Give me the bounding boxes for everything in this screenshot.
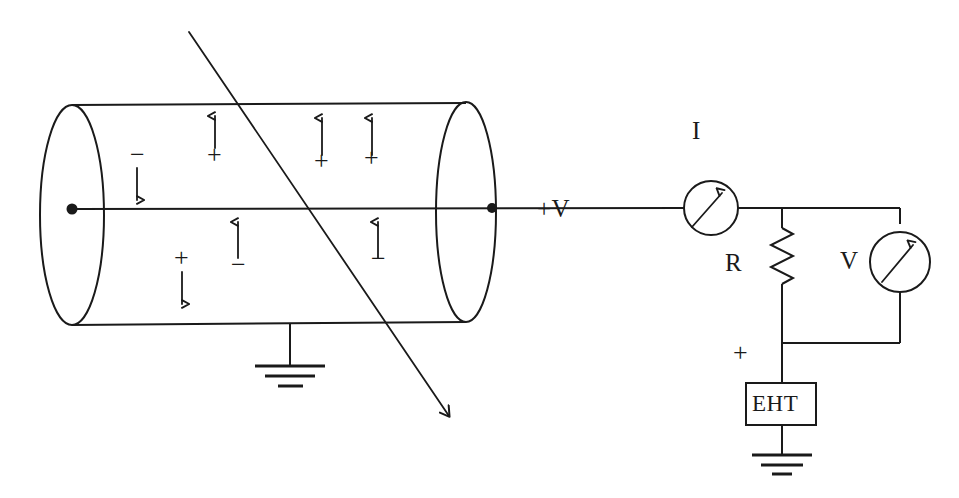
ammeter-label: I: [692, 118, 700, 143]
central-electrode-wire: [67, 203, 685, 215]
electrode-voltage-label: +V: [537, 196, 570, 221]
ion-sign-lower-1: +: [174, 245, 189, 271]
ion-sign-upper-4: +: [364, 145, 379, 171]
chamber-left-face: [40, 105, 104, 325]
chamber-right-face: [436, 102, 496, 322]
voltmeter-symbol: [782, 208, 930, 343]
ion-sign-upper-3: +: [314, 148, 329, 174]
eht-ground: [752, 425, 812, 474]
ammeter-symbol: [684, 181, 738, 235]
resistor-zigzag: [771, 228, 793, 284]
resistor-label: R: [725, 250, 742, 275]
ion-sign-lower-2: −: [231, 252, 246, 278]
diagram-canvas: [0, 0, 959, 498]
circuit-diagram: − + + + + − − +V I R V + EHT: [0, 0, 959, 498]
chamber-body: [40, 102, 496, 325]
chamber-top-edge: [72, 103, 466, 105]
ion-sign-lower-3: −: [371, 246, 386, 272]
resistor-symbol: [771, 208, 793, 384]
eht-polarity-label: +: [733, 340, 748, 366]
voltmeter-circle: [870, 232, 930, 292]
particle-track-arrow: [189, 32, 449, 416]
electrode-axis-line: [72, 208, 684, 209]
chamber-bottom-edge: [72, 322, 466, 325]
eht-label: EHT: [752, 392, 798, 415]
ion-sign-upper-1: −: [130, 142, 145, 168]
chamber-ground: [255, 324, 325, 386]
electrode-left-node: [67, 204, 78, 215]
electrode-right-node: [487, 203, 497, 213]
voltmeter-label: V: [840, 248, 858, 273]
ion-sign-upper-2: +: [207, 142, 222, 168]
